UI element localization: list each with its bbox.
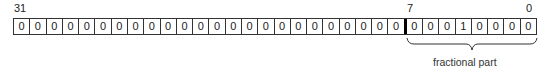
fractional-part-label: fractional part — [433, 56, 497, 68]
